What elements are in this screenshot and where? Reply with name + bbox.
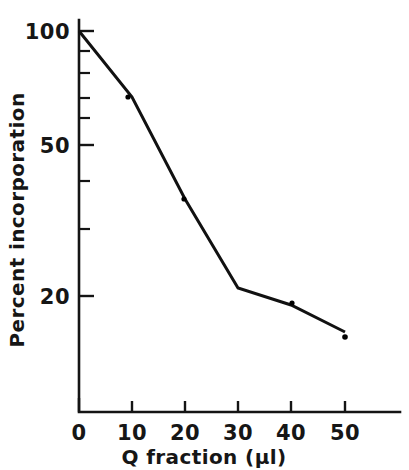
axes-group: [79, 20, 400, 412]
x-tick-labels: 0 10 20 30 40 50: [71, 421, 360, 445]
y-tick-labels: 100 50 20: [25, 20, 70, 309]
x-tick-label-10: 10: [117, 421, 147, 445]
x-tick-label-30: 30: [223, 421, 253, 445]
x-axis-title: Q fraction (µl): [121, 445, 286, 469]
data-point-10: [125, 94, 130, 99]
y-tick-label-50: 50: [40, 134, 70, 158]
y-tick-label-100: 100: [25, 20, 70, 44]
axis-lines: [79, 20, 400, 412]
x-tick-label-0: 0: [71, 421, 86, 445]
y-axis-title: Percent incorporation: [5, 92, 29, 347]
x-tick-label-20: 20: [170, 421, 200, 445]
x-tick-label-50: 50: [330, 421, 360, 445]
chart-figure: 100 50 20 0 10 20 30 40 50 Q fraction (µ…: [0, 0, 409, 470]
series-line: [79, 31, 345, 332]
data-point-20: [181, 196, 186, 201]
line-chart-plot: 100 50 20 0 10 20 30 40 50 Q fraction (µ…: [0, 0, 409, 470]
y-axis-ticks: [79, 31, 94, 296]
x-axis-ticks: [79, 398, 345, 412]
data-point-50: [342, 334, 348, 340]
x-tick-label-40: 40: [276, 421, 306, 445]
y-tick-label-20: 20: [40, 285, 70, 309]
data-point-40: [289, 300, 294, 305]
data-series-percent-incorporation: [79, 31, 348, 340]
